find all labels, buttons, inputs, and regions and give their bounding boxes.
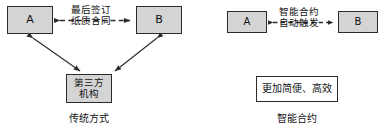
right-node-party-b: B (338, 11, 378, 33)
left-node-party-b: B (136, 6, 182, 34)
right-node-party-a-label: A (244, 16, 251, 27)
left-edge-label-paper-contract: 最后签订 纸质合同 (59, 4, 123, 26)
left-node-third-party: 第三方 机构 (66, 74, 112, 103)
right-node-benefit-label: 更加简便、高效 (262, 83, 332, 94)
left-a-third-connector (33, 38, 80, 71)
left-node-party-a: A (7, 6, 53, 34)
comparison-diagram: A B 第三方 机构 最后签订 纸质合同 传统方式 A B 更加简便、高效 智能… (0, 0, 390, 134)
left-node-third-party-label: 第三方 机构 (74, 78, 104, 99)
right-edge-label-smart-contract: 智能合约 自动触发 (268, 6, 330, 28)
left-node-party-b-label: B (155, 14, 163, 26)
right-node-party-b-label: B (355, 16, 362, 27)
right-node-party-a: A (227, 11, 267, 33)
left-panel-caption: 传统方式 (52, 110, 126, 125)
right-panel-caption: 智能合约 (258, 110, 336, 125)
left-node-party-a-label: A (26, 14, 34, 26)
left-b-third-connector (115, 38, 157, 71)
right-node-benefit: 更加简便、高效 (256, 76, 338, 102)
